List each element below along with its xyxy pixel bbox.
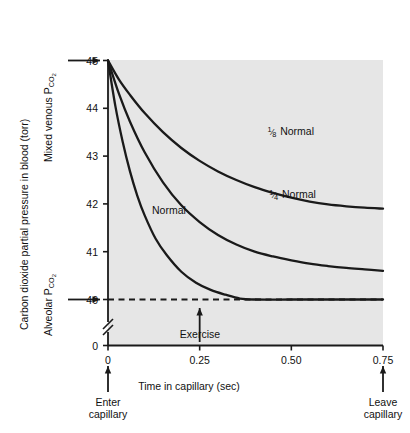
mixed-venous-text: Mixed venous P	[42, 87, 54, 162]
leave-capillary-line2: capillary	[364, 408, 403, 420]
exercise-label: Exercise	[180, 328, 220, 340]
enter-capillary-line2: capillary	[89, 408, 128, 420]
curve-label-normal: Normal	[152, 204, 186, 216]
x-axis-title: Time in capillary (sec)	[138, 380, 240, 392]
y-tick-label-0: 0	[92, 340, 98, 352]
y-tick-label-43: 43	[86, 150, 98, 162]
curve-label-eighth-normal: 1⁄8 Normal	[268, 125, 315, 138]
curve-label-text-eighth-normal: Normal	[280, 125, 314, 137]
fraction-eighth-normal: 1⁄8	[268, 125, 278, 138]
alveolar-sub2: 2	[51, 274, 57, 277]
x-tick-label-0.75: 0.75	[373, 354, 393, 366]
y-tick-label-42: 42	[86, 198, 98, 210]
y-tick-label-41: 41	[86, 246, 98, 258]
leave-capillary-line1: Leave	[364, 396, 403, 408]
y-axis-title: Carbon dioxide partial pressure in blood…	[18, 119, 30, 330]
enter-capillary-line1: Enter	[89, 396, 128, 408]
y-tick-label-45: 45	[86, 55, 98, 67]
leave-capillary-label: Leave capillary	[364, 396, 403, 420]
plot-area-background	[108, 60, 383, 345]
co2-capillary-chart	[0, 0, 410, 433]
y-tick-label-44: 44	[86, 102, 98, 114]
x-tick-label-0.25: 0.25	[189, 354, 209, 366]
alveolar-sub: CO	[47, 277, 56, 288]
y-tick-label-40: 40	[86, 294, 98, 306]
curve-label-text-quarter-normal: Normal	[282, 188, 316, 200]
x-tick-label-0.50: 0.50	[281, 354, 301, 366]
x-tick-label-0: 0	[105, 354, 111, 366]
enter-capillary-label: Enter capillary	[89, 396, 128, 420]
mixed-venous-annotation: Mixed venous PCO2	[42, 73, 54, 162]
alveolar-annotation: Alveolar PCO2	[42, 274, 54, 336]
mixed-venous-sub2: 2	[51, 73, 57, 76]
alveolar-text: Alveolar P	[42, 288, 54, 336]
mixed-venous-sub: CO	[47, 77, 56, 88]
curve-label-quarter-normal: 1⁄4 Normal	[269, 188, 316, 201]
fraction-quarter-normal: 1⁄4	[269, 188, 279, 201]
